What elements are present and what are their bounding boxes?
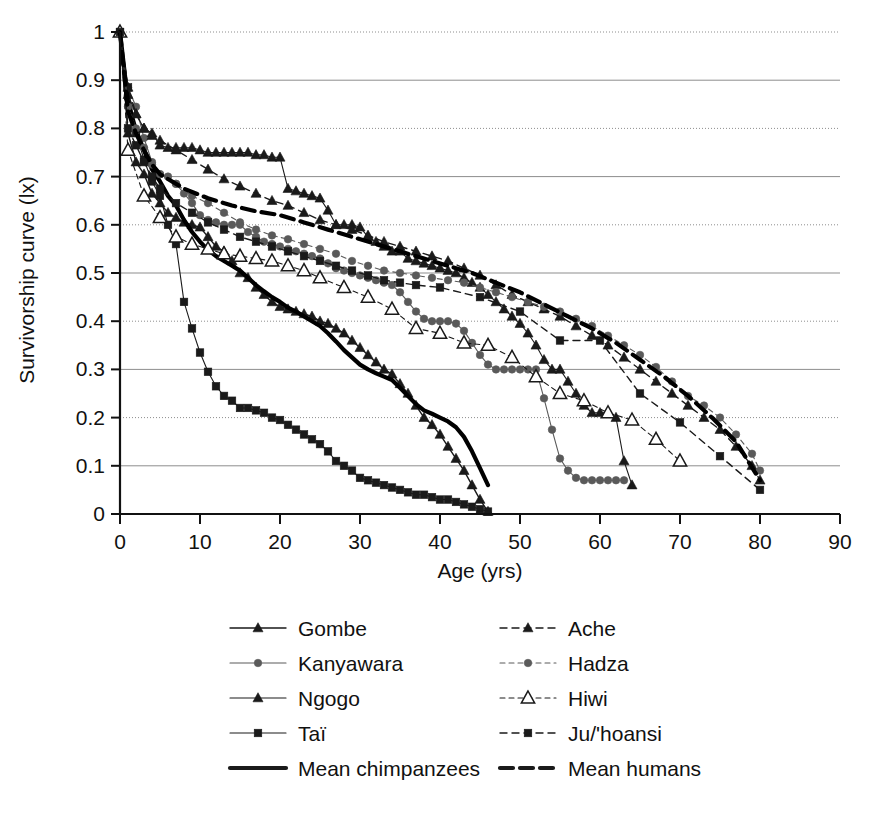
data-point [284,248,292,256]
data-point [284,235,292,243]
data-point [508,366,516,374]
data-point [460,327,468,335]
legend-label: Taï [298,722,326,745]
data-point [156,192,164,200]
data-point [380,276,388,284]
data-point [196,211,204,219]
data-point [436,284,444,292]
x-tick-label: 70 [668,530,691,553]
data-point [564,467,572,475]
data-point [556,455,564,463]
data-point [388,484,396,492]
data-point [516,366,524,374]
data-point [212,382,220,390]
data-point [268,414,276,422]
data-point [180,298,188,306]
data-point [460,501,468,509]
data-point [460,279,468,287]
data-point [300,431,308,439]
data-point [748,450,756,458]
data-point [476,351,484,359]
x-tick-label: 50 [508,530,531,553]
data-point [420,315,428,323]
data-point [428,274,436,282]
data-point [476,293,484,301]
data-point [420,491,428,499]
data-point [548,426,556,434]
data-point [252,407,260,415]
data-point [300,252,308,260]
data-point [348,267,356,275]
data-point [348,467,356,475]
data-point [380,481,388,489]
data-point [396,269,404,277]
data-point [580,476,588,484]
data-point [468,503,476,511]
data-point [412,272,420,280]
legend-label: Kanyawara [298,652,403,675]
legend-label: Mean humans [568,757,701,780]
data-point [260,409,268,417]
data-point [268,232,276,240]
y-tick-label: 0.1 [76,454,105,477]
y-tick-label: 0.5 [76,261,105,284]
data-point [364,476,372,484]
data-point [476,284,484,292]
data-point [572,474,580,482]
data-point [380,267,388,275]
data-point [516,308,524,316]
data-point [364,262,372,270]
data-point [188,325,196,333]
legend-label: Ngogo [298,687,360,710]
data-point [556,337,564,345]
y-tick-label: 0.3 [76,357,105,380]
data-point [300,240,308,248]
survivorship-chart: 00.10.20.30.40.50.60.70.80.9101020304050… [0,0,876,816]
data-point [220,392,228,400]
data-point [428,317,436,325]
y-tick-label: 0 [93,502,105,525]
data-point [196,349,204,357]
data-point [244,228,252,236]
data-point [316,257,324,265]
y-tick-label: 0.8 [76,116,105,139]
data-point [140,158,148,166]
y-axis-title: Survivorship curve (lx) [15,176,38,384]
y-tick-label: 0.4 [76,309,106,332]
data-point [268,243,276,251]
data-point [412,308,420,316]
x-tick-label: 90 [828,530,851,553]
data-point [396,289,404,297]
data-point [188,209,196,217]
data-point [236,233,244,241]
data-point [412,281,420,289]
data-point [308,436,316,444]
y-tick-label: 0.6 [76,213,105,236]
x-tick-label: 20 [268,530,291,553]
x-axis-title: Age (yrs) [437,559,522,582]
data-point [324,448,332,456]
data-point [236,404,244,412]
x-tick-label: 80 [748,530,771,553]
data-point [588,476,596,484]
data-point [444,276,452,284]
data-point [428,493,436,501]
data-point [596,476,604,484]
data-point [412,491,420,499]
data-point [316,440,324,448]
data-point [228,397,236,405]
data-point [332,457,340,465]
data-point [254,659,262,667]
y-tick-label: 0.9 [76,68,105,91]
data-point [636,390,644,398]
data-point [148,173,156,181]
data-point [476,505,484,513]
data-point [124,125,132,133]
y-tick-label: 0.7 [76,165,105,188]
data-point [340,462,348,470]
data-point [220,226,228,234]
data-point [172,199,180,207]
data-point [444,496,452,504]
y-tick-label: 1 [93,20,105,43]
data-point [396,486,404,494]
